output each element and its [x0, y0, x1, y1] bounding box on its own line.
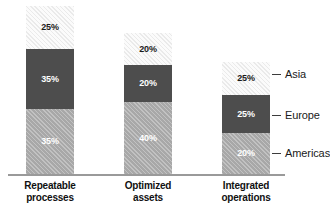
cat-label-line2: assets	[93, 192, 203, 204]
bar-segment-europe[interactable]: 35%	[26, 49, 74, 109]
segment-value-label: 35%	[41, 137, 58, 146]
segment-value-label: 20%	[139, 45, 156, 54]
segment-value-label: 25%	[237, 110, 254, 119]
x-axis-label-optimized-assets: Optimized assets	[93, 180, 203, 204]
segment-value-label: 20%	[237, 149, 254, 158]
bar-optimized-assets[interactable]: 20% 20% 40%	[124, 33, 172, 174]
bar-repeatable-processes[interactable]: 25% 35% 35%	[26, 6, 74, 174]
legend-label-asia: Asia	[285, 69, 306, 80]
segment-value-label: 35%	[41, 75, 58, 84]
legend-label-europe: Europe	[285, 110, 320, 121]
cat-label-line1: Integrated	[191, 180, 301, 192]
bar-segment-asia[interactable]: 25%	[222, 62, 270, 95]
legend-leader-dash-icon	[272, 115, 281, 116]
bar-segment-asia[interactable]: 20%	[124, 33, 172, 65]
cat-label-line1: Repeatable	[0, 180, 105, 192]
legend-label-americas: Americas	[285, 148, 330, 159]
legend-leader-dash-icon	[272, 74, 281, 75]
x-axis-line	[8, 174, 285, 176]
bar-integrated-operations[interactable]: 25% 25% 20%	[222, 62, 270, 174]
bar-segment-europe[interactable]: 20%	[124, 65, 172, 102]
bar-segment-asia[interactable]: 25%	[26, 6, 74, 49]
legend-leader-dash-icon	[272, 153, 281, 154]
cat-label-line1: Optimized	[93, 180, 203, 192]
cat-label-line2: operations	[191, 192, 301, 204]
cat-label-line2: processes	[0, 192, 105, 204]
segment-value-label: 25%	[41, 23, 58, 32]
segment-value-label: 40%	[139, 134, 156, 143]
bar-segment-americas[interactable]: 40%	[124, 102, 172, 174]
x-axis-label-integrated-operations: Integrated operations	[191, 180, 301, 204]
bar-segment-europe[interactable]: 25%	[222, 95, 270, 133]
segment-value-label: 25%	[237, 74, 254, 83]
segment-value-label: 20%	[139, 79, 156, 88]
x-axis-label-repeatable-processes: Repeatable processes	[0, 180, 105, 204]
bar-segment-americas[interactable]: 35%	[26, 109, 74, 174]
bar-segment-americas[interactable]: 20%	[222, 133, 270, 174]
